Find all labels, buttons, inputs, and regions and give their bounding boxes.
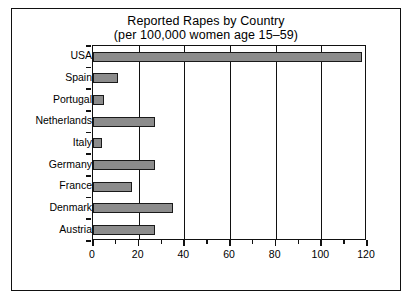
- bar-portugal: [93, 95, 104, 105]
- bar-row: [93, 154, 367, 176]
- y-axis-tick: [86, 67, 91, 69]
- y-axis-label-austria: Austria: [18, 224, 92, 235]
- bar-row: [93, 111, 367, 133]
- x-axis-label-80: 80: [269, 248, 281, 260]
- bar-france: [93, 182, 132, 192]
- x-axis-tick: [275, 240, 277, 246]
- y-axis-tick: [86, 218, 91, 220]
- x-axis-minor-tick: [161, 240, 163, 244]
- bar-usa: [93, 52, 362, 62]
- y-axis-label-spain: Spain: [18, 72, 92, 83]
- x-axis-label-60: 60: [223, 248, 235, 260]
- y-axis-tick: [86, 132, 91, 134]
- x-axis-minor-tick: [115, 240, 117, 244]
- y-axis-tick: [86, 88, 91, 90]
- x-axis-label-100: 100: [312, 248, 330, 260]
- y-axis-tick: [86, 175, 91, 177]
- x-axis: 020406080100120: [92, 240, 366, 270]
- bar-row: [93, 219, 367, 241]
- bar-row: [93, 133, 367, 155]
- x-axis-minor-tick: [298, 240, 300, 244]
- x-axis-minor-tick: [206, 240, 208, 244]
- x-axis-tick: [320, 240, 322, 246]
- y-axis-tick: [86, 153, 91, 155]
- x-axis-label-40: 40: [177, 248, 189, 260]
- y-axis-label-denmark: Denmark: [18, 202, 92, 213]
- x-axis-label-120: 120: [357, 248, 375, 260]
- bar-netherlands: [93, 117, 155, 127]
- x-axis-tick: [92, 240, 94, 246]
- y-axis-tick: [86, 240, 91, 242]
- bar-row: [93, 198, 367, 220]
- bar-row: [93, 89, 367, 111]
- x-axis-label-20: 20: [132, 248, 144, 260]
- chart-subtitle: (per 100,000 women age 15–59): [12, 28, 400, 42]
- bar-row: [93, 46, 367, 68]
- y-axis-tick: [86, 45, 91, 47]
- chart-title-block: Reported Rapes by Country (per 100,000 w…: [12, 14, 400, 42]
- x-axis-label-0: 0: [89, 248, 95, 260]
- bar-italy: [93, 138, 102, 148]
- bar-austria: [93, 225, 155, 235]
- y-axis-label-netherlands: Netherlands: [18, 115, 92, 126]
- y-axis-label-usa: USA: [18, 50, 92, 61]
- y-axis-label-portugal: Portugal: [18, 94, 92, 105]
- y-axis-label-germany: Germany: [18, 159, 92, 170]
- plot-area: [92, 45, 366, 240]
- x-axis-minor-tick: [343, 240, 345, 244]
- bar-denmark: [93, 203, 173, 213]
- bar-spain: [93, 73, 118, 83]
- x-axis-tick: [183, 240, 185, 246]
- bar-germany: [93, 160, 155, 170]
- y-axis-tick: [86, 110, 91, 112]
- page-title: Reported Rapes by Country: [12, 14, 400, 28]
- y-axis-label-france: France: [18, 180, 92, 191]
- x-axis-tick: [229, 240, 231, 246]
- y-axis: USASpainPortugalNetherlandsItalyGermanyF…: [12, 45, 92, 240]
- y-axis-label-italy: Italy: [18, 137, 92, 148]
- x-axis-minor-tick: [252, 240, 254, 244]
- bar-row: [93, 68, 367, 90]
- bar-row: [93, 176, 367, 198]
- x-axis-tick: [366, 240, 368, 246]
- y-axis-tick: [86, 197, 91, 199]
- x-axis-tick: [138, 240, 140, 246]
- chart-figure: Reported Rapes by Country (per 100,000 w…: [11, 8, 401, 291]
